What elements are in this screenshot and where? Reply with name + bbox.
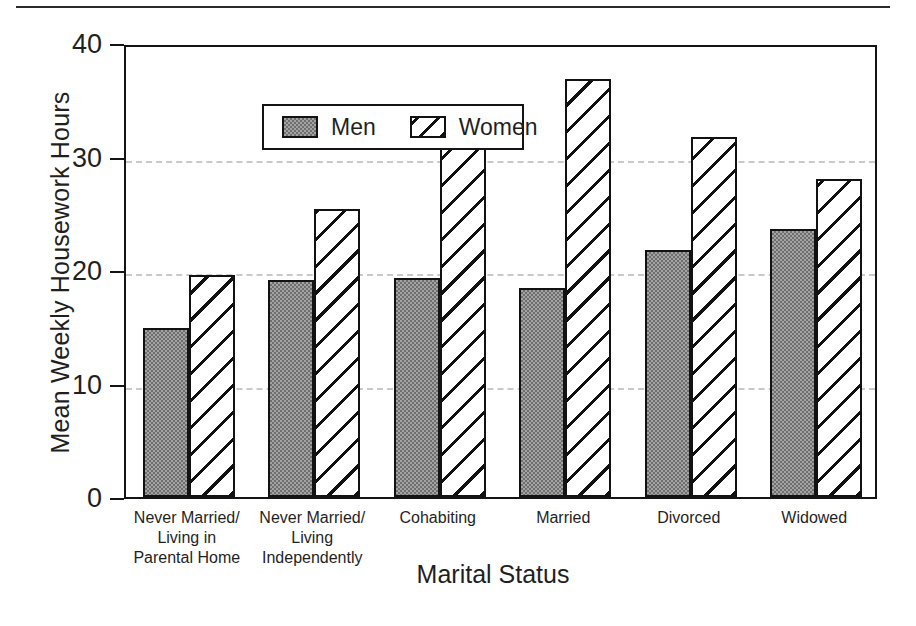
chart-legend: Men Women: [262, 104, 524, 150]
y-axis-tick-major: [110, 158, 124, 160]
bar-women-6: [816, 179, 862, 497]
plot-area: Men Women: [124, 45, 877, 499]
bar-men-6: [770, 229, 816, 497]
x-axis-title: Marital Status: [0, 560, 916, 589]
legend-swatch-men-icon: [282, 116, 318, 138]
legend-label-men: Men: [331, 114, 376, 141]
y-axis-tick-major: [110, 385, 124, 387]
bar-men-1: [143, 328, 189, 497]
y-axis-tick-major: [110, 271, 124, 273]
legend-swatch-women-icon: [410, 116, 446, 138]
bar-men-5: [645, 250, 691, 497]
bar-men-3: [394, 278, 440, 497]
y-axis-tick-major: [110, 498, 124, 500]
y-axis-tick-major: [110, 44, 124, 46]
y-axis-tick-label: 40: [4, 31, 102, 58]
bar-chart-figure: Mean Weekly Housework Hours 010203040 Me…: [0, 0, 916, 626]
bar-women-1: [189, 275, 235, 497]
legend-entry-women: Women: [410, 114, 538, 141]
legend-entry-men: Men: [282, 114, 376, 141]
bar-men-2: [268, 280, 314, 497]
category-label-line: Widowed: [729, 508, 899, 528]
y-axis-tick-label: 20: [4, 258, 102, 285]
bar-women-4: [565, 79, 611, 497]
bar-women-5: [691, 137, 737, 497]
y-axis-tick-label: 0: [4, 485, 102, 512]
category-label-line: Living: [227, 528, 397, 548]
bar-women-2: [314, 209, 360, 497]
y-axis-tick-label: 30: [4, 145, 102, 172]
bar-women-3: [440, 141, 486, 497]
x-axis-category-label-6: Widowed: [729, 508, 899, 528]
legend-label-women: Women: [459, 114, 538, 141]
bar-men-4: [519, 288, 565, 497]
y-axis-tick-label: 10: [4, 372, 102, 399]
x-axis-title-text: Marital Status: [417, 560, 570, 589]
